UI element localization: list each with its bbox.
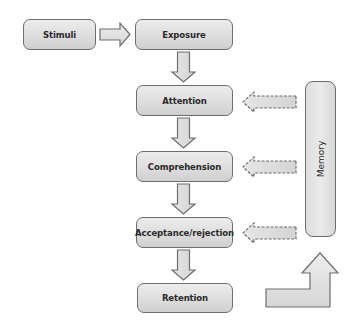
bent-up-arrow-icon <box>266 253 338 307</box>
down-arrow-icon <box>172 250 195 280</box>
dashed-left-arrow-icon <box>243 223 296 243</box>
dashed-left-arrow-icon <box>243 92 296 112</box>
dashed-left-arrow-icon <box>243 157 296 177</box>
arrows-layer <box>0 0 353 324</box>
down-arrow-icon <box>172 52 195 82</box>
right-arrow-icon <box>100 23 130 46</box>
down-arrow-icon <box>172 184 195 214</box>
down-arrow-icon <box>172 118 195 148</box>
